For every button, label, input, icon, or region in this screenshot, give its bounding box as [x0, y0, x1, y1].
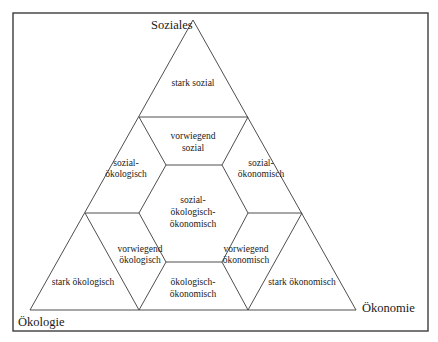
corner-label-soziales: Soziales	[151, 18, 193, 32]
svg-text:sozial-: sozial-	[248, 158, 273, 168]
svg-text:vorwiegend: vorwiegend	[224, 244, 269, 254]
svg-text:ökonomisch: ökonomisch	[170, 219, 217, 229]
svg-text:ökonomisch: ökonomisch	[223, 255, 270, 265]
region-stark-sozial: stark sozial	[171, 78, 214, 88]
corner-label-oekologie: Ökologie	[18, 315, 65, 329]
region-vorwiegend-sozial: vorwiegend sozial	[171, 131, 216, 153]
svg-text:sozial: sozial	[182, 143, 205, 153]
region-vorwiegend-oekonomisch: vorwiegend ökonomisch	[223, 244, 270, 265]
region-sozial-oekologisch-oekonomisch: sozial- ökologisch- ökonomisch	[170, 195, 217, 229]
svg-text:ökologisch-: ökologisch-	[171, 277, 216, 287]
svg-text:sozial-: sozial-	[180, 195, 205, 205]
region-sozial-oekonomisch: sozial- ökonomisch	[238, 158, 285, 179]
region-stark-oekonomisch: stark ökonomisch	[268, 277, 336, 287]
region-stark-oekologisch: stark ökologisch	[52, 277, 115, 287]
region-oekologisch-oekonomisch: ökologisch- ökonomisch	[170, 277, 217, 299]
svg-text:vorwiegend: vorwiegend	[118, 244, 163, 254]
svg-text:ökonomisch: ökonomisch	[238, 169, 285, 179]
svg-text:ökologisch-: ökologisch-	[171, 207, 216, 217]
svg-text:vorwiegend: vorwiegend	[171, 131, 216, 141]
corner-label-oekonomie: Ökonomie	[362, 301, 415, 315]
svg-text:sozial-: sozial-	[113, 158, 138, 168]
region-sozial-oekologisch: sozial- ökologisch	[105, 158, 147, 179]
svg-text:ökologisch: ökologisch	[105, 169, 147, 179]
region-vorwiegend-oekologisch: vorwiegend ökologisch	[118, 244, 163, 265]
svg-text:ökologisch: ökologisch	[119, 255, 161, 265]
sustainability-triangle-diagram: Soziales Ökologie Ökonomie stark sozial …	[0, 0, 438, 342]
svg-text:ökonomisch: ökonomisch	[170, 289, 217, 299]
